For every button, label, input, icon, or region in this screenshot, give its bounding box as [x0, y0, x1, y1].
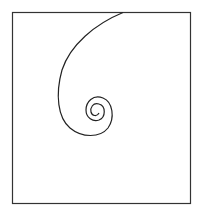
spiral-curve — [58, 13, 123, 136]
spiral-diagram — [0, 0, 203, 207]
frame — [13, 13, 191, 204]
